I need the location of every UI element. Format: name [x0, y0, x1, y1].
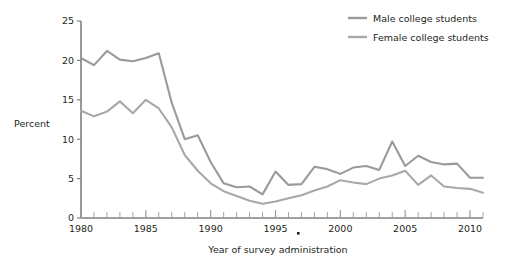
x-axis-tick-label: 1985 — [134, 223, 158, 234]
line-chart: 0510152025 1980198519901995200020052010 … — [0, 0, 511, 270]
chart-legend: Male college studentsFemale college stud… — [348, 13, 489, 43]
chart-container: 0510152025 1980198519901995200020052010 … — [0, 0, 511, 270]
x-axis-tick-label: 2010 — [458, 223, 482, 234]
y-axis-tick-label: 20 — [62, 55, 74, 66]
data-series-group — [81, 51, 483, 204]
x-axis-title: Year of survey administration — [207, 244, 347, 255]
y-axis-tick-label: 5 — [68, 173, 74, 184]
x-axis-tick-label: 1995 — [263, 223, 287, 234]
y-axis-tick-label: 25 — [62, 15, 74, 26]
x-axis-tick-label: 1980 — [69, 223, 93, 234]
y-axis: 0510152025 — [62, 15, 81, 223]
legend-label-male: Male college students — [373, 13, 477, 24]
legend-label-female: Female college students — [373, 32, 489, 43]
annotation-group — [297, 232, 300, 235]
stray-dot — [297, 232, 300, 235]
y-axis-tick-label: 0 — [68, 212, 74, 223]
x-axis-tick-label: 2000 — [328, 223, 352, 234]
series-line-male — [81, 51, 483, 194]
x-axis-tick-label: 1990 — [199, 223, 223, 234]
x-axis-tick-label: 2005 — [393, 223, 417, 234]
series-line-female — [81, 100, 483, 204]
y-axis-tick-label: 10 — [62, 134, 74, 145]
y-axis-tick-label: 15 — [62, 94, 74, 105]
y-axis-title: Percent — [14, 118, 50, 129]
x-axis: 1980198519901995200020052010 — [69, 210, 483, 234]
